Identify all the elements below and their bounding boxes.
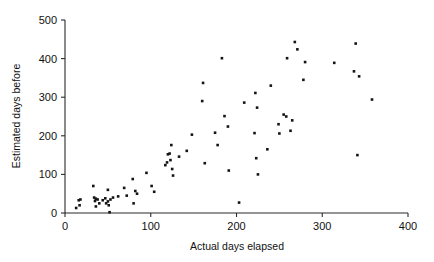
data-point: [302, 79, 305, 82]
data-point: [282, 113, 285, 116]
y-axis: 0100200300400500: [39, 14, 65, 219]
x-axis-tick-label: 200: [227, 220, 245, 232]
data-point: [98, 202, 101, 205]
data-point: [123, 187, 126, 190]
data-point: [371, 98, 374, 101]
data-point: [145, 172, 148, 175]
data-point: [216, 144, 219, 147]
data-point: [270, 84, 273, 87]
data-point: [168, 152, 171, 155]
data-point: [169, 159, 172, 162]
chart-canvas: 0100200300400500 0100200300400 Actual da…: [0, 0, 434, 262]
y-axis-tick-label: 200: [39, 130, 57, 142]
data-point: [172, 174, 175, 177]
data-point: [296, 48, 299, 51]
data-point: [256, 106, 259, 109]
data-point: [254, 92, 257, 95]
data-point: [96, 198, 99, 201]
x-axis-tick-label: 0: [62, 220, 68, 232]
data-points-layer: [75, 41, 373, 214]
data-point: [185, 150, 188, 153]
data-point: [238, 201, 241, 204]
x-axis-tick-label: 300: [313, 220, 331, 232]
data-point: [333, 62, 336, 65]
data-point: [79, 198, 82, 201]
data-point: [203, 162, 206, 165]
x-axis-tick-label: 400: [399, 220, 417, 232]
data-point: [286, 57, 289, 60]
data-point: [278, 132, 281, 135]
x-axis: 0100200300400: [62, 213, 417, 232]
data-point: [108, 211, 111, 214]
data-point: [291, 119, 294, 122]
y-axis-title: Estimated days before: [10, 64, 22, 169]
data-point: [78, 204, 81, 207]
data-point: [285, 115, 288, 118]
data-point: [125, 194, 128, 197]
y-axis-tick-label: 0: [51, 207, 57, 219]
data-point: [178, 155, 181, 158]
data-point: [304, 61, 307, 64]
data-point: [112, 196, 115, 199]
data-point: [134, 190, 137, 193]
data-point: [171, 168, 174, 171]
x-axis-tick-label: 100: [142, 220, 160, 232]
data-point: [191, 133, 194, 136]
data-point: [243, 101, 246, 104]
data-point: [354, 42, 357, 45]
data-point: [356, 154, 359, 157]
data-point: [136, 192, 139, 195]
data-point: [109, 198, 112, 201]
data-point: [170, 144, 173, 147]
data-point: [227, 125, 230, 128]
data-point: [131, 178, 134, 181]
data-point: [289, 129, 292, 132]
y-axis-tick-label: 500: [39, 14, 57, 26]
data-point: [255, 157, 258, 160]
data-point: [150, 185, 153, 188]
data-point: [132, 202, 135, 205]
x-axis-title: Actual days elapsed: [190, 240, 284, 252]
data-point: [358, 75, 361, 78]
data-point: [253, 132, 256, 135]
data-point: [94, 200, 97, 203]
data-point: [277, 123, 280, 126]
data-point: [166, 161, 169, 164]
data-point: [227, 169, 230, 172]
data-point: [75, 207, 78, 210]
data-point: [153, 190, 156, 193]
data-point: [95, 205, 98, 208]
data-point: [221, 57, 224, 60]
data-point: [223, 115, 226, 118]
data-point: [101, 199, 104, 202]
data-point: [164, 164, 167, 167]
data-point: [353, 70, 356, 73]
data-point: [294, 41, 297, 44]
data-point: [107, 200, 110, 203]
data-point: [257, 173, 260, 176]
data-point: [214, 131, 217, 134]
data-point: [92, 185, 95, 188]
data-point: [107, 204, 110, 207]
data-point: [107, 189, 110, 192]
scatter-plot-figure: 0100200300400500 0100200300400 Actual da…: [0, 0, 434, 262]
data-point: [202, 82, 205, 85]
y-axis-tick-label: 100: [39, 168, 57, 180]
data-point: [104, 197, 107, 200]
data-point: [201, 100, 204, 103]
data-point: [117, 195, 120, 198]
y-axis-tick-label: 300: [39, 91, 57, 103]
y-axis-tick-label: 400: [39, 53, 57, 65]
data-point: [266, 148, 269, 151]
